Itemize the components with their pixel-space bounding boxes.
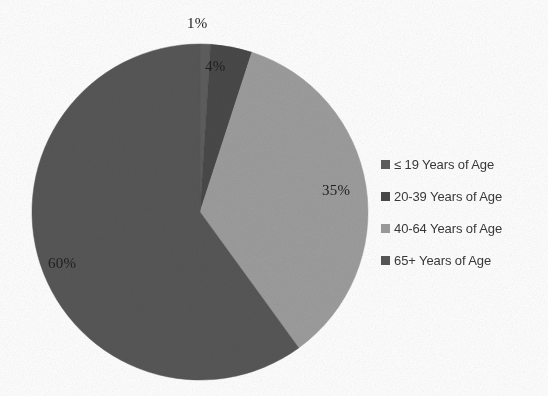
legend-item-label: 40-64 Years of Age	[394, 221, 502, 236]
legend-swatch-icon	[381, 160, 390, 169]
legend-swatch-icon	[381, 224, 390, 233]
chart-legend: ≤ 19 Years of Age 20-39 Years of Age 40-…	[381, 148, 541, 276]
legend-swatch-icon	[381, 192, 390, 201]
slice-label-le-19: 1%	[187, 15, 207, 32]
slice-label-20-39: 4%	[205, 58, 225, 75]
legend-item-label: ≤ 19 Years of Age	[394, 157, 494, 172]
legend-item-65-plus[interactable]: 65+ Years of Age	[381, 244, 541, 276]
legend-item-40-64[interactable]: 40-64 Years of Age	[381, 212, 541, 244]
legend-item-label: 20-39 Years of Age	[394, 189, 502, 204]
legend-swatch-icon	[381, 256, 390, 265]
pie-chart: 1% 4% 35% 60% ≤ 19 Years of Age 20-39 Ye…	[0, 0, 548, 396]
slice-label-40-64: 35%	[322, 182, 350, 199]
slice-label-65-plus: 60%	[48, 255, 76, 272]
pie-slices	[32, 44, 368, 380]
legend-item-label: 65+ Years of Age	[394, 253, 491, 268]
legend-item-20-39[interactable]: 20-39 Years of Age	[381, 180, 541, 212]
legend-item-le-19[interactable]: ≤ 19 Years of Age	[381, 148, 541, 180]
